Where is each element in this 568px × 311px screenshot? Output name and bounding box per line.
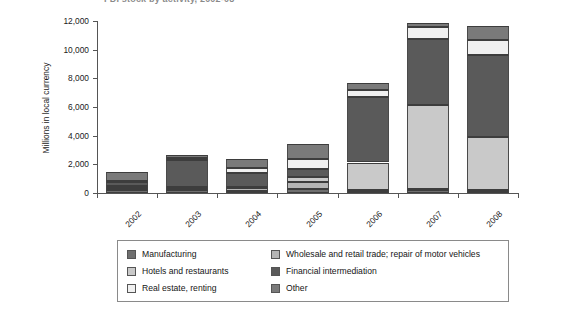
bar-segment (407, 190, 449, 193)
bar-segment (347, 83, 389, 91)
bar-segment (166, 160, 208, 187)
chart-figure: FDI stock by activity, 2002-08 Millions … (0, 0, 568, 311)
y-axis-tick-label: 10,000 (63, 45, 89, 55)
x-axis-ticks (97, 194, 519, 199)
legend-item[interactable]: Real estate, renting (127, 280, 287, 297)
bar-segment (226, 188, 268, 190)
x-axis-tick-label: 2004 (243, 209, 263, 229)
x-axis-tick-label: 2007 (424, 209, 444, 229)
bar-segment (106, 182, 148, 186)
legend-column-right: Wholesale and retail trade; repair of mo… (271, 246, 503, 297)
y-axis-tick-labels: 02,0004,0006,0008,00010,00012,000 (33, 21, 89, 194)
x-axis-tick-label: 2002 (123, 209, 143, 229)
bar-segment (287, 182, 329, 189)
legend-item-label: Financial intermediation (286, 267, 377, 276)
bar-segment (407, 39, 449, 105)
bar-segment (347, 90, 389, 96)
bar-segment (226, 159, 268, 168)
legend-item-label: Wholesale and retail trade; repair of mo… (286, 250, 480, 259)
bar-segment (226, 186, 268, 188)
bar-segment (467, 191, 509, 193)
legend-item[interactable]: Wholesale and retail trade; repair of mo… (271, 246, 503, 263)
legend-swatch-icon (127, 267, 136, 276)
bar-segment (347, 97, 389, 163)
bar-2005 (287, 144, 329, 193)
bar-segment (467, 137, 509, 190)
x-axis-tick (518, 194, 519, 198)
bar-segment (106, 172, 148, 181)
chart-legend: ManufacturingHotels and restaurantsReal … (117, 240, 509, 302)
bar-segment (166, 190, 208, 193)
bar-segment (287, 189, 329, 193)
legend-item-label: Other (286, 284, 308, 293)
x-axis-tick-labels: 2002200320042005200620072008 (97, 200, 557, 236)
x-axis-tick-label: 2005 (304, 209, 324, 229)
bar-segment (166, 188, 208, 190)
bar-segment (347, 191, 389, 193)
y-axis-tick-label: 0 (84, 188, 89, 198)
bar-segment (407, 105, 449, 190)
legend-column-left: ManufacturingHotels and restaurantsReal … (127, 246, 287, 297)
bar-2008 (467, 26, 509, 193)
bar-segment (226, 168, 268, 173)
bar-segment (226, 173, 268, 187)
chart-title: FDI stock by activity, 2002-08 (104, 0, 234, 4)
bar-2007 (407, 23, 449, 193)
y-axis-tick-label: 12,000 (63, 16, 89, 26)
bar-segment (467, 26, 509, 40)
bar-2006 (347, 83, 389, 194)
y-axis-tick-label: 2,000 (68, 159, 89, 169)
legend-swatch-icon (127, 284, 136, 293)
legend-item[interactable]: Manufacturing (127, 246, 287, 263)
legend-item[interactable]: Hotels and restaurants (127, 263, 287, 280)
bar-segment (106, 190, 148, 193)
legend-item-label: Real estate, renting (142, 284, 217, 293)
y-axis-tick-label: 6,000 (68, 102, 89, 112)
bar-segment (287, 159, 329, 169)
bar-2004 (226, 159, 268, 193)
legend-swatch-icon (271, 250, 280, 259)
x-axis-tick-label: 2006 (364, 209, 384, 229)
legend-item[interactable]: Other (271, 280, 503, 297)
x-axis-tick-label: 2003 (183, 209, 203, 229)
bar-segment (287, 177, 329, 183)
bar-segment (106, 188, 148, 190)
x-axis-tick (157, 194, 158, 198)
bar-segment (287, 144, 329, 160)
x-axis-tick (398, 194, 399, 198)
legend-swatch-icon (127, 250, 136, 259)
bar-segment (407, 27, 449, 39)
x-axis-tick (338, 194, 339, 198)
bar-segment (287, 169, 329, 176)
legend-swatch-icon (271, 284, 280, 293)
legend-item-label: Manufacturing (142, 250, 196, 259)
x-axis-tick (458, 194, 459, 198)
bar-segment (166, 155, 208, 158)
bar-segment (106, 186, 148, 189)
plot-area (97, 21, 518, 193)
bar-segment (467, 40, 509, 55)
x-axis-tick (97, 194, 98, 198)
bar-segment (226, 191, 268, 193)
bar-2003 (166, 155, 208, 193)
legend-swatch-icon (271, 267, 280, 276)
legend-item-label: Hotels and restaurants (142, 267, 228, 276)
bar-segment (467, 55, 509, 137)
bar-segment (407, 23, 449, 27)
x-axis-tick (277, 194, 278, 198)
y-axis-tick-label: 8,000 (68, 73, 89, 83)
legend-item[interactable]: Financial intermediation (271, 263, 503, 280)
x-axis-tick-label: 2008 (484, 209, 504, 229)
bar-segment (347, 163, 389, 190)
y-axis-tick-label: 4,000 (68, 131, 89, 141)
x-axis-tick (217, 194, 218, 198)
bar-2002 (106, 172, 148, 193)
